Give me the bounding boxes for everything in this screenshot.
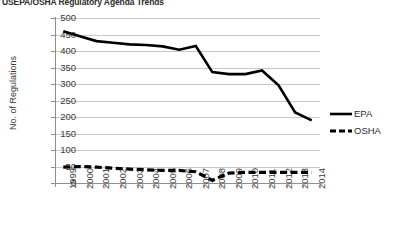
legend-item-osha[interactable]: OSHA [330,122,381,139]
chart-container: USEPA/OSHA Regulatory Agenda Trends No. … [0,0,398,231]
legend-swatch-solid-icon [330,109,352,119]
legend-swatch-dashed-icon [330,126,352,136]
legend-label: EPA [354,109,372,119]
series-line-osha [63,167,311,181]
legend-label: OSHA [354,126,381,136]
chart-legend: EPAOSHA [330,105,381,139]
legend-item-epa[interactable]: EPA [330,105,381,122]
series-line-epa [63,31,311,120]
